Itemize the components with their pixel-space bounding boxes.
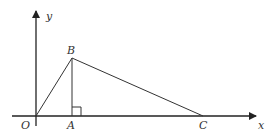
point-c-label: C	[199, 119, 208, 132]
triangle-diagram: y x O B A C	[0, 0, 273, 139]
segment-ob	[36, 58, 72, 116]
point-a-label: A	[66, 119, 75, 132]
y-axis-label: y	[45, 10, 53, 23]
origin-label: O	[21, 119, 30, 132]
segment-bc	[72, 58, 203, 116]
right-angle-marker	[72, 107, 81, 116]
point-b-label: B	[66, 44, 75, 57]
x-axis-label: x	[258, 119, 265, 132]
